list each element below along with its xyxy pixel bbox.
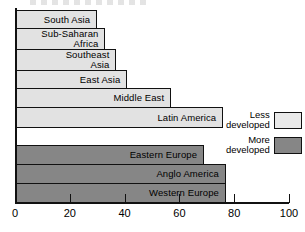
x-tick-0 — [15, 194, 16, 203]
legend-item-less-developed: Less developed — [226, 110, 302, 130]
bar-more-6: Eastern Europe — [15, 145, 204, 165]
bar-label: East Asia — [80, 75, 121, 85]
x-tick-80 — [234, 194, 235, 203]
legend-label-less-developed: Less developed — [226, 110, 270, 130]
bar-less-1: Sub-Saharan Africa — [15, 28, 105, 50]
x-tick-60 — [179, 194, 180, 203]
bar-chart: South AsiaSub-Saharan AfricaSoutheast As… — [0, 0, 305, 232]
bar-less-5: Latin America — [15, 107, 223, 128]
bar-more-7: Anglo America — [15, 164, 226, 184]
legend-swatch-less-developed — [274, 112, 302, 129]
bar-label: Anglo America — [156, 169, 219, 179]
x-tick-label-20: 20 — [64, 207, 76, 219]
bar-less-0: South Asia — [15, 10, 97, 29]
bar-label: Eastern Europe — [130, 150, 197, 160]
y-axis-line — [15, 8, 17, 203]
x-tick-40 — [125, 194, 126, 203]
x-axis-line — [15, 202, 289, 204]
legend-item-more-developed: More developed — [226, 135, 302, 155]
x-tick-label-60: 60 — [173, 207, 185, 219]
bar-less-3: East Asia — [15, 70, 127, 89]
bar-more-8: Western Europe — [15, 183, 226, 203]
bar-label: Western Europe — [149, 188, 219, 198]
x-tick-label-40: 40 — [118, 207, 130, 219]
plot-area: South AsiaSub-Saharan AfricaSoutheast As… — [0, 0, 305, 232]
bar-less-2: Southeast Asia — [15, 49, 116, 71]
bar-label: Sub-Saharan Africa — [41, 29, 98, 49]
x-tick-100 — [289, 194, 290, 203]
bar-label: Middle East — [113, 93, 164, 103]
bar-label: Southeast Asia — [66, 50, 110, 70]
x-tick-label-0: 0 — [12, 207, 18, 219]
legend-swatch-more-developed — [274, 137, 302, 154]
legend-label-more-developed: More developed — [226, 135, 270, 155]
x-tick-label-100: 100 — [280, 207, 298, 219]
legend: Less developed More developed — [226, 110, 302, 155]
bar-less-4: Middle East — [15, 88, 171, 108]
x-tick-20 — [70, 194, 71, 203]
bar-label: Latin America — [157, 113, 216, 123]
bar-label: South Asia — [44, 15, 90, 25]
x-tick-label-80: 80 — [228, 207, 240, 219]
